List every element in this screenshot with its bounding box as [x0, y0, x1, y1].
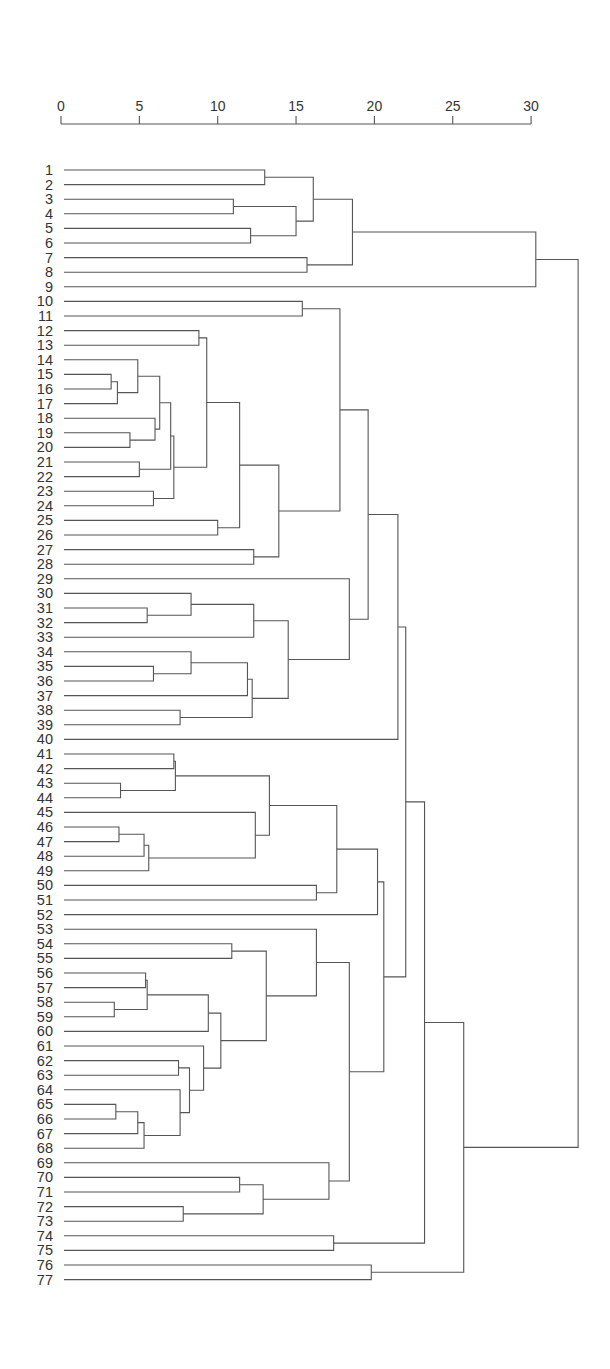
leaf-label: 9 — [45, 279, 53, 295]
cluster-link-c19 — [64, 491, 153, 506]
leaf-label: 7 — [45, 250, 53, 266]
leaf-label: 63 — [37, 1067, 53, 1083]
cluster-link-c41 — [121, 761, 176, 790]
cluster-link-c11 — [64, 374, 111, 389]
cluster-link-c12 — [64, 382, 117, 404]
leaf-label: 40 — [37, 731, 53, 747]
cluster-link-c71 — [384, 627, 406, 977]
leaf-label: 23 — [37, 483, 53, 499]
cluster-link-c21 — [174, 338, 207, 467]
leaf-label: 1 — [45, 162, 53, 178]
cluster-link-c64 — [64, 929, 316, 996]
leaf-label: 6 — [45, 235, 53, 251]
cluster-link-c5 — [265, 177, 314, 221]
leaf-label: 58 — [37, 994, 53, 1010]
cluster-link-c76 — [464, 259, 578, 1147]
cluster-link-c49 — [64, 849, 378, 914]
cluster-link-c25 — [240, 465, 279, 557]
cluster-link-c52 — [64, 1002, 114, 1017]
leaf-label: 19 — [37, 425, 53, 441]
cluster-link-c22 — [64, 520, 218, 535]
cluster-link-c29 — [64, 604, 254, 637]
leaf-label: 49 — [37, 863, 53, 879]
leaf-label: 46 — [37, 819, 53, 835]
dendrogram-chart: 051015202530 123456789101112131415161718… — [0, 0, 610, 1369]
axis-tick-label: 5 — [135, 98, 143, 114]
leaf-label: 12 — [37, 323, 53, 339]
cluster-link-c9 — [64, 301, 302, 316]
cluster-link-c59 — [64, 1090, 180, 1136]
leaf-label: 10 — [37, 293, 53, 309]
leaf-label: 33 — [37, 629, 53, 645]
leaf-label: 42 — [37, 761, 53, 777]
leaf-label: 21 — [37, 454, 53, 470]
cluster-link-c55 — [64, 1061, 179, 1076]
cluster-link-c45 — [64, 812, 255, 858]
leaf-label: 27 — [37, 542, 53, 558]
leaf-label: 28 — [37, 556, 53, 572]
axis-tick-label: 15 — [288, 98, 304, 114]
leaf-label: 41 — [37, 746, 53, 762]
leaf-label: 44 — [37, 790, 53, 806]
leaf-label: 36 — [37, 673, 53, 689]
axis-tick-label: 20 — [367, 98, 383, 114]
leaf-label: 61 — [37, 1038, 53, 1054]
cluster-link-c57 — [64, 1112, 138, 1134]
cluster-link-c8 — [64, 232, 536, 287]
cluster-link-c48 — [269, 806, 336, 893]
cluster-link-c26 — [279, 309, 340, 511]
leaf-label: 39 — [37, 717, 53, 733]
cluster-link-c17 — [64, 462, 139, 477]
cluster-link-c74 — [64, 1265, 371, 1280]
leaf-label: 59 — [37, 1009, 53, 1025]
leaf-label: 2 — [45, 177, 53, 193]
leaf-label: 51 — [37, 892, 53, 908]
leaf-label: 20 — [37, 439, 53, 455]
cluster-link-c16 — [138, 376, 160, 429]
leaf-label: 13 — [37, 337, 53, 353]
axis-tick-label: 25 — [445, 98, 461, 114]
leaf-label: 75 — [37, 1242, 53, 1258]
cluster-link-c40 — [64, 783, 121, 798]
cluster-link-c58 — [64, 1123, 144, 1149]
leaf-label: 64 — [37, 1082, 53, 1098]
leaf-label: 3 — [45, 191, 53, 207]
axis-tick-label: 10 — [210, 98, 226, 114]
leaf-label: 5 — [45, 220, 53, 236]
cluster-link-c10 — [64, 331, 199, 346]
leaf-label: 67 — [37, 1126, 53, 1142]
leaf-label: 43 — [37, 775, 53, 791]
leaf-label: 73 — [37, 1213, 53, 1229]
cluster-link-c1 — [64, 170, 265, 185]
cluster-link-c67 — [183, 1185, 263, 1214]
leaf-label: 15 — [37, 366, 53, 382]
leaf-label: 8 — [45, 264, 53, 280]
leaf-label: 22 — [37, 469, 53, 485]
leaf-labels: 1234567891011121314151617181920212223242… — [37, 162, 53, 1288]
leaf-label: 66 — [37, 1111, 53, 1127]
leaf-label: 45 — [37, 804, 53, 820]
leaf-label: 11 — [38, 308, 53, 324]
cluster-link-c56 — [64, 1104, 116, 1119]
cluster-link-c33 — [64, 710, 180, 725]
cluster-link-c28 — [64, 593, 191, 615]
cluster-link-c13 — [64, 360, 138, 393]
cluster-link-c70 — [349, 882, 383, 1072]
cluster-link-c24 — [64, 550, 254, 565]
leaf-label: 71 — [37, 1184, 53, 1200]
cluster-link-c72 — [64, 1236, 334, 1251]
leaf-label: 54 — [37, 936, 53, 952]
leaf-label: 69 — [37, 1155, 53, 1171]
axis-tick-label: 30 — [523, 98, 539, 114]
leaf-label: 65 — [37, 1096, 53, 1112]
cluster-link-c30 — [64, 666, 153, 681]
leaf-label: 77 — [37, 1272, 53, 1288]
leaf-label: 70 — [37, 1169, 53, 1185]
leaf-label: 74 — [37, 1228, 53, 1244]
leaf-label: 34 — [37, 644, 53, 660]
leaf-label: 72 — [37, 1199, 53, 1215]
leaf-label: 68 — [37, 1140, 53, 1156]
cluster-link-c6 — [64, 258, 307, 273]
leaf-label: 17 — [37, 396, 53, 412]
cluster-link-c23 — [207, 403, 240, 528]
